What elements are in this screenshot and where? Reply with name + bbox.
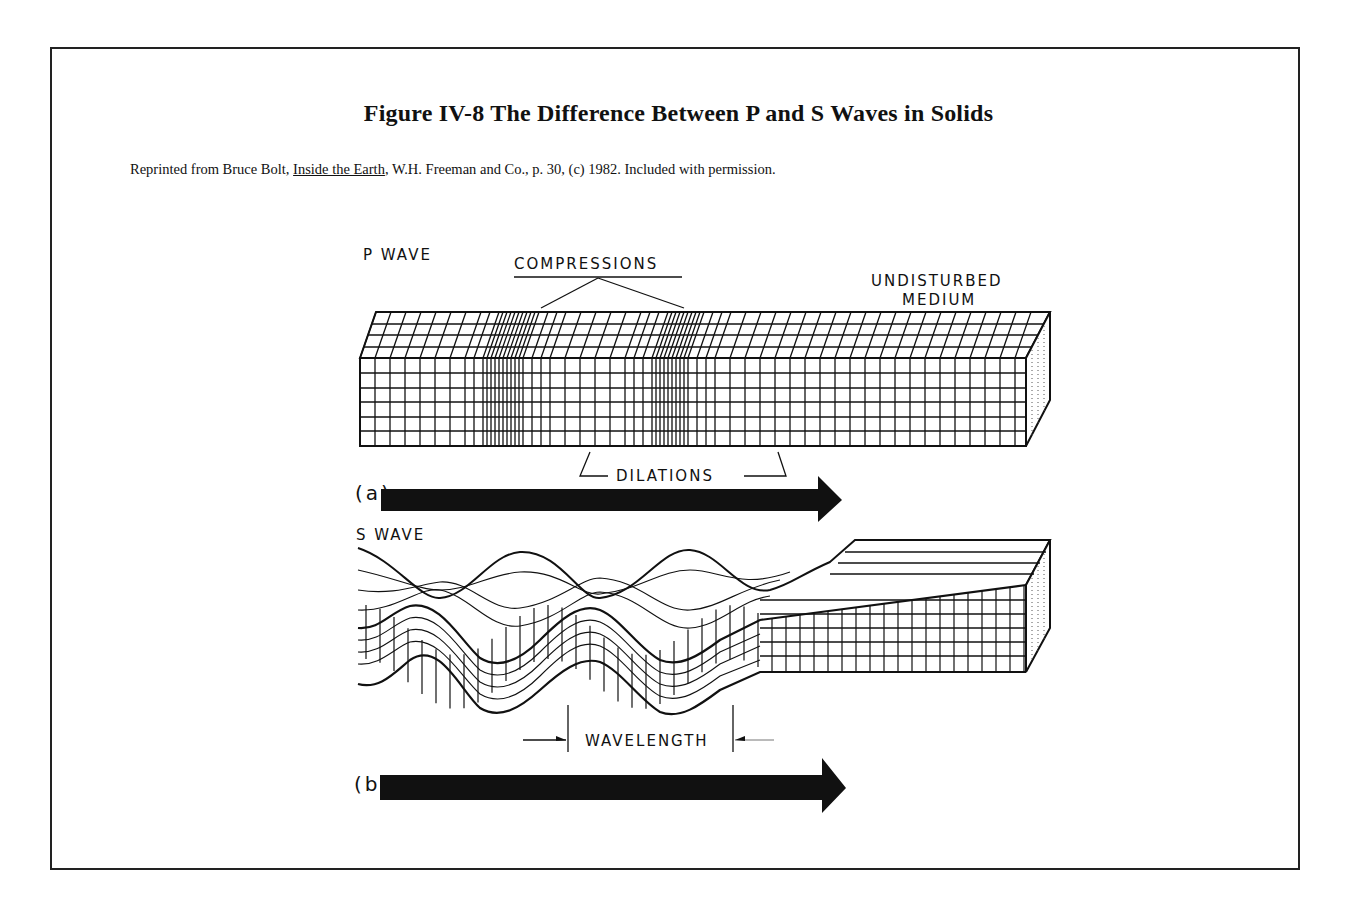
compressions-pointer-left xyxy=(541,278,598,308)
compressions-pointer-right xyxy=(598,278,684,308)
wavelength-label: WAVELENGTH xyxy=(585,732,709,750)
p-wave-panel: P WAVE COMPRESSIONS UNDISTURBED MEDIUM xyxy=(355,246,1050,522)
undisturbed-label-line2: MEDIUM xyxy=(902,291,976,309)
compressions-label: COMPRESSIONS xyxy=(514,255,658,273)
dilations-bracket-left xyxy=(580,452,608,476)
p-wave-direction-arrow xyxy=(381,476,842,522)
undisturbed-label-line1: UNDISTURBED xyxy=(871,272,1003,290)
p-wave-block xyxy=(360,312,1050,446)
s-wave-direction-arrow xyxy=(380,758,846,813)
s-wave-panel: S WAVE xyxy=(354,526,1050,813)
wave-diagram: P WAVE COMPRESSIONS UNDISTURBED MEDIUM xyxy=(0,0,1357,922)
dilations-bracket-right xyxy=(744,452,786,476)
p-wave-label: P WAVE xyxy=(363,246,432,264)
s-wave-block xyxy=(358,540,1050,714)
s-wave-label: S WAVE xyxy=(356,526,425,544)
dilations-label: DILATIONS xyxy=(616,467,714,485)
